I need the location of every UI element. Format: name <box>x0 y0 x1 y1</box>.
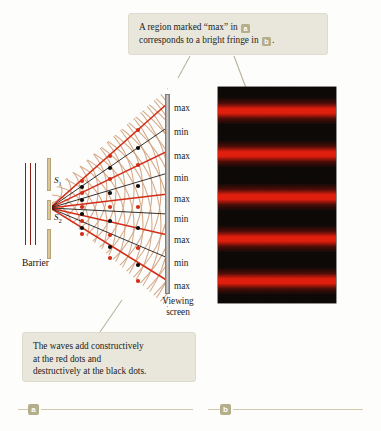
panel-rule-b-right <box>233 409 363 410</box>
callout-top-text-2: corresponds to a bright fringe in <box>139 35 259 45</box>
viewing-screen-bar <box>165 94 170 294</box>
callout-bottom-line-2: at the red dots and <box>33 353 186 366</box>
bright-fringe-5 <box>218 267 336 296</box>
callout-top-line-1: A region marked “max” in a <box>139 21 318 34</box>
panel-rule-a-left <box>18 409 28 410</box>
fringe-label-min-1: min <box>174 127 188 137</box>
callout-max-bright-fringe: A region marked “max” in a corresponds t… <box>128 13 328 55</box>
barrier-segment-middle <box>47 200 51 220</box>
fringe-label-max-8: max <box>174 281 190 291</box>
fringe-label-min-7: min <box>174 258 188 268</box>
fringe-label-max-2: max <box>174 151 190 161</box>
leader-line-to-diagram <box>178 56 190 78</box>
panel-rule-a-right <box>41 409 193 410</box>
barrier-segment-bottom <box>47 229 51 259</box>
callout-top-line-2: corresponds to a bright fringe in b. <box>139 34 318 47</box>
constructive-dots <box>80 128 140 283</box>
panel-rule-b-left <box>208 409 220 410</box>
wave-interference-fan <box>52 88 168 308</box>
panel-badge-b: b <box>220 404 231 415</box>
badge-b-inline: b <box>262 37 271 46</box>
callout-top-period: . <box>272 35 274 45</box>
bright-fringe-3 <box>218 183 336 212</box>
bright-fringe-2 <box>218 140 336 169</box>
badge-a-inline: a <box>241 24 250 33</box>
bright-fringe-4 <box>218 225 336 254</box>
fringe-photograph <box>218 87 336 303</box>
barrier-segment-top <box>47 158 51 191</box>
callout-constructive-destructive: The waves add constructively at the red … <box>22 332 196 382</box>
fringe-label-max-6: max <box>174 235 190 245</box>
callout-bottom-line-3: destructively at the black dots. <box>33 365 186 378</box>
callout-bottom-line-1: The waves add constructively <box>33 340 186 353</box>
barrier-label: Barrier <box>22 258 49 268</box>
panel-badge-a: a <box>28 404 39 415</box>
viewing-screen-label-line2: screen <box>166 307 190 317</box>
viewing-screen-label: Viewing screen <box>148 296 208 318</box>
bright-fringe-1 <box>218 97 336 126</box>
fringe-label-max-4: max <box>174 194 190 204</box>
callout-top-text-1: A region marked “max” in <box>139 22 238 32</box>
fringe-label-min-3: min <box>174 173 188 183</box>
incoming-wavefronts <box>25 163 39 245</box>
viewing-screen-label-line1: Viewing <box>162 296 193 306</box>
fringe-label-max-0: max <box>174 103 190 113</box>
figure-root: A region marked “max” in a corresponds t… <box>0 0 381 431</box>
fringe-label-min-5: min <box>174 214 188 224</box>
